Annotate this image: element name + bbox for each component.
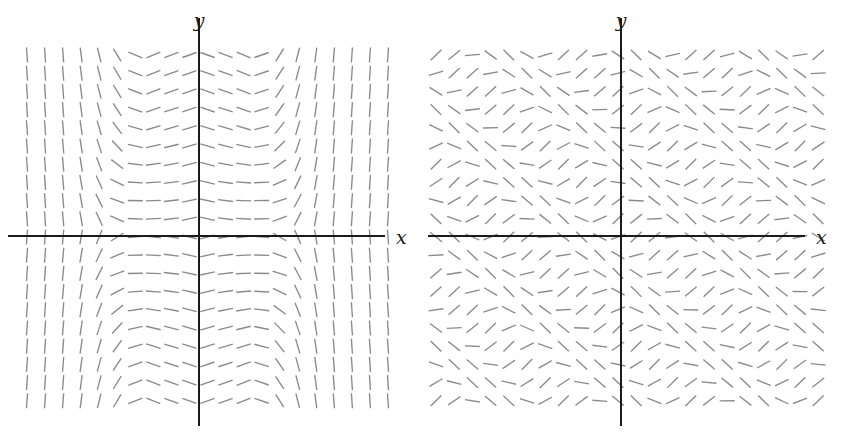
slope-dash — [647, 218, 662, 219]
slope-dash — [430, 87, 443, 95]
slope-dash — [665, 291, 680, 292]
slope-dash — [110, 198, 124, 203]
slope-dash — [369, 302, 370, 317]
slope-dash — [704, 286, 715, 296]
slope-dash — [26, 139, 27, 154]
slope-dash — [237, 107, 251, 112]
slope-dash — [369, 175, 370, 190]
slope-dash — [630, 360, 643, 368]
slope-dash — [146, 52, 160, 58]
slope-dash — [702, 382, 717, 383]
slope-dash — [128, 326, 143, 329]
slope-dash — [255, 89, 269, 94]
slope-dash — [111, 288, 124, 295]
slope-dash — [236, 126, 250, 130]
slope-dash — [811, 126, 826, 130]
slope-dash — [702, 215, 715, 222]
slope-dash — [720, 163, 735, 165]
slope-dash — [97, 339, 101, 353]
slope-dash — [429, 143, 443, 149]
slope-dash — [218, 362, 232, 367]
slope-dash — [237, 89, 251, 94]
slope-dash — [369, 248, 370, 263]
slope-dash — [540, 268, 551, 278]
slope-dash — [97, 375, 101, 390]
slope-dash — [775, 379, 789, 385]
slope-dash — [254, 145, 269, 148]
slope-dash — [813, 268, 824, 278]
slope-dash — [485, 396, 496, 406]
slope-dash — [113, 376, 121, 389]
slope-dash — [80, 120, 82, 135]
slope-dash — [467, 305, 478, 315]
slope-dash — [351, 375, 352, 390]
slope-dash — [45, 375, 46, 390]
slope-dash — [218, 326, 233, 330]
slope-dash — [740, 196, 752, 205]
slope-dash — [164, 126, 178, 130]
slope-dash — [296, 339, 300, 353]
slope-dash — [467, 195, 478, 206]
slope-dash — [97, 121, 101, 135]
slope-dash — [314, 193, 317, 208]
slope-dash — [630, 69, 643, 77]
slope-dash — [62, 84, 63, 99]
slope-dash — [128, 291, 143, 292]
slope-dash — [522, 68, 533, 79]
slope-dash — [558, 214, 569, 224]
slope-dash — [756, 144, 771, 147]
slope-dash — [684, 179, 697, 186]
slope-dash — [465, 54, 480, 55]
slope-field-left-canvas — [0, 0, 420, 442]
slope-dash — [164, 344, 178, 348]
slope-dash — [558, 341, 569, 351]
slope-dash — [667, 141, 678, 152]
slope-dash — [111, 160, 123, 169]
slope-dash — [182, 89, 196, 94]
slope-dash — [503, 159, 514, 169]
slope-dash — [558, 268, 569, 278]
slope-dash — [387, 48, 388, 63]
slope-field-right-panel: y x — [420, 0, 840, 442]
slope-dash — [333, 84, 334, 99]
slope-dash — [296, 394, 300, 409]
slope-dash — [351, 284, 352, 299]
slope-dash — [315, 157, 317, 172]
slope-dash — [387, 211, 388, 226]
slope-dash — [685, 214, 696, 225]
slope-dash — [351, 321, 352, 336]
slope-dash — [811, 179, 825, 185]
slope-dash — [576, 177, 587, 188]
slope-dash — [276, 67, 284, 80]
slope-dash — [274, 323, 284, 334]
slope-dash — [485, 105, 496, 115]
slope-dash — [775, 142, 788, 150]
slope-dash — [273, 198, 287, 203]
slope-dash — [80, 84, 82, 99]
slope-dash — [793, 107, 807, 112]
slope-dash — [484, 288, 497, 296]
slope-dash — [26, 248, 27, 263]
slope-dash — [182, 181, 197, 184]
slope-dash — [594, 359, 605, 369]
slope-dash — [351, 66, 352, 81]
slope-dash — [503, 396, 514, 406]
slope-dash — [521, 287, 533, 295]
slope-dash — [448, 50, 460, 60]
slope-dash — [794, 124, 807, 132]
slope-dash — [182, 308, 197, 312]
slope-dash — [111, 305, 123, 314]
slope-dash — [813, 341, 824, 351]
slope-dash — [387, 393, 388, 408]
slope-dash — [502, 325, 516, 331]
slope-dash — [758, 104, 769, 115]
slope-dash — [254, 344, 269, 348]
slope-dash — [449, 177, 460, 188]
slope-dash — [164, 144, 179, 148]
slope-dash — [275, 103, 284, 115]
slope-dash — [387, 284, 388, 299]
slope-dash — [757, 88, 771, 94]
slope-dash — [520, 51, 533, 58]
slope-dash — [146, 163, 161, 165]
slope-dash — [739, 51, 752, 59]
